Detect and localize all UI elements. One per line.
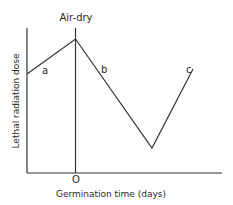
dose-curve bbox=[27, 39, 193, 148]
x-tick-zero: O bbox=[72, 174, 80, 185]
segment-c-label: c bbox=[186, 64, 192, 75]
y-axis-title: Lethal radiation dose bbox=[11, 53, 21, 148]
air-dry-label: Air-dry bbox=[59, 12, 92, 23]
x-axis-title: Germination time (days) bbox=[56, 189, 166, 199]
segment-b-label: b bbox=[101, 64, 107, 75]
chart: Air-dry a b c O Germination time (days) … bbox=[0, 0, 233, 205]
segment-a-label: a bbox=[42, 65, 48, 76]
